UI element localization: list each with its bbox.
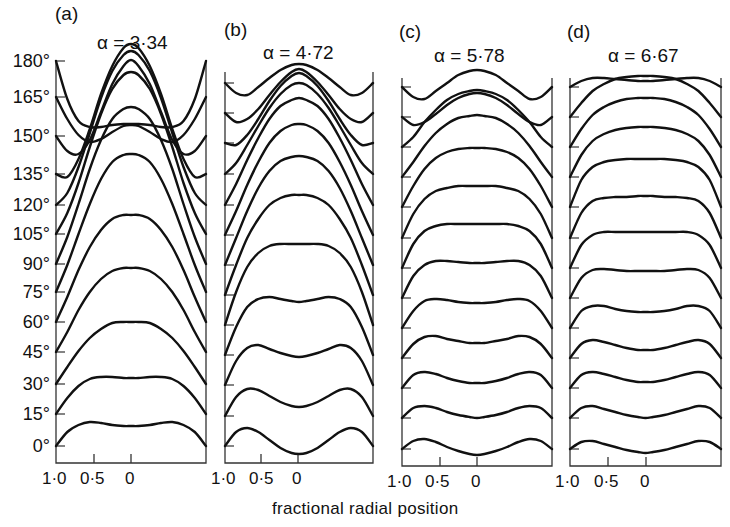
x-tick-d-0: 0 [640, 473, 649, 490]
profile-curve [402, 439, 552, 455]
x-tick-b-0: 0 [292, 470, 301, 487]
panel-b [225, 64, 373, 463]
profile-curve [570, 232, 721, 268]
panel-d [570, 76, 721, 466]
profile-curve [570, 78, 721, 87]
x-tick-c-0: 0 [471, 473, 480, 490]
profile-curve [225, 244, 373, 325]
y-tick-30: 30° [0, 375, 50, 393]
figure: (a) (b) (c) (d) α = 3·34 α = 4·72 α = 5·… [0, 0, 730, 527]
x-tick-a-1.0: 1·0 [42, 470, 67, 487]
profile-curve [225, 428, 373, 454]
x-axis-label: fractional radial position [272, 500, 458, 517]
y-tick-135: 135° [0, 165, 50, 183]
profile-curve [56, 377, 206, 414]
y-tick-90: 90° [0, 255, 50, 273]
y-tick-165: 165° [0, 88, 50, 106]
panel-letter-a: (a) [55, 4, 78, 23]
profile-curve [570, 372, 721, 388]
profile-curve [402, 372, 552, 388]
y-tick-150: 150° [0, 127, 50, 145]
profile-curve [225, 124, 373, 235]
profile-curve [56, 268, 206, 352]
plot-area [0, 0, 730, 527]
panel-a [56, 44, 206, 463]
profile-curve [570, 340, 721, 358]
panel-c [402, 70, 552, 466]
y-tick-0: 0° [0, 437, 50, 455]
profile-curve [402, 70, 552, 99]
profile-curve [56, 44, 206, 178]
profile-curve [402, 261, 552, 298]
profile-curve [570, 269, 721, 298]
profile-curve [56, 322, 206, 384]
panel-letter-c: (c) [399, 22, 421, 41]
x-tick-a-0: 0 [125, 470, 134, 487]
y-tick-60: 60° [0, 313, 50, 331]
y-tick-120: 120° [0, 196, 50, 214]
profile-curve [402, 406, 552, 418]
panel-letter-d: (d) [567, 22, 590, 41]
profile-curve [225, 297, 373, 355]
profile-curve [402, 224, 552, 268]
y-tick-180: 180° [0, 52, 50, 70]
x-tick-d-0.5: 0·5 [594, 473, 619, 490]
alpha-label-c: α = 5·78 [434, 46, 505, 65]
y-tick-105: 105° [0, 225, 50, 243]
y-tick-75: 75° [0, 283, 50, 301]
profile-curve [570, 441, 721, 453]
y-tick-15: 15° [0, 405, 50, 423]
profile-curve [402, 336, 552, 358]
profile-curve [570, 406, 721, 418]
panel-letter-b: (b) [224, 20, 247, 39]
x-tick-c-1.0: 1·0 [387, 473, 412, 490]
x-tick-d-1.0: 1·0 [555, 473, 580, 490]
profile-curve [225, 98, 373, 205]
profile-curve [225, 156, 373, 265]
panel-frame [402, 78, 552, 466]
profile-curve [225, 388, 373, 416]
alpha-label-b: α = 4·72 [263, 43, 334, 62]
alpha-label-d: α = 6·67 [608, 46, 679, 65]
y-tick-45: 45° [0, 343, 50, 361]
profile-curve [56, 422, 206, 446]
profile-curve [570, 306, 721, 328]
x-tick-b-0.5: 0·5 [249, 470, 274, 487]
x-tick-c-0.5: 0·5 [425, 473, 450, 490]
profile-curve [402, 299, 552, 328]
x-tick-a-0.5: 0·5 [80, 470, 105, 487]
x-tick-b-1.0: 1·0 [211, 470, 236, 487]
profile-curve [225, 345, 373, 385]
profile-curve [570, 127, 721, 177]
alpha-label-a: α = 3·34 [97, 33, 168, 52]
